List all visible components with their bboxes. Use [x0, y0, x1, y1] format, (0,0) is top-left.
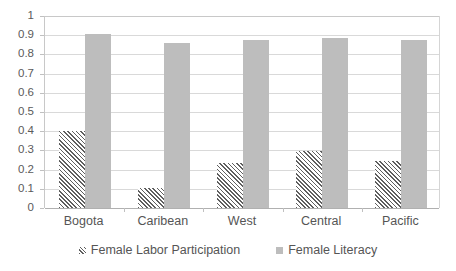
y-tick-label: 0.9	[0, 29, 39, 41]
bar-female-labor-participation	[217, 163, 243, 208]
y-tick-label: 0.2	[0, 164, 39, 176]
y-tick-mark	[40, 93, 44, 94]
y-tick-label: 0.3	[0, 144, 39, 156]
y-tick-label: 0.1	[0, 183, 39, 195]
y-tick-label: 0	[0, 202, 39, 214]
y-tick-label: 0.4	[0, 125, 39, 137]
x-tick-label: Central	[282, 212, 361, 230]
chart-legend: Female Labor ParticipationFemale Literac…	[0, 240, 456, 260]
x-tick-label: Pacific	[361, 212, 440, 230]
bar-group	[59, 16, 111, 208]
bar-female-labor-participation	[59, 131, 85, 208]
gridline	[45, 208, 439, 209]
bar-group	[217, 16, 269, 208]
y-tick-mark	[40, 131, 44, 132]
y-tick-mark	[40, 150, 44, 151]
y-tick-label: 0.8	[0, 48, 39, 60]
bar-female-labor-participation	[138, 188, 164, 208]
legend-label: Female Literacy	[288, 243, 377, 257]
bar-female-literacy	[401, 40, 427, 208]
bar-female-labor-participation	[375, 161, 401, 208]
bar-chart: 00.10.20.30.40.50.60.70.80.91 BogotaCari…	[0, 0, 456, 271]
bar-group	[375, 16, 427, 208]
bar-group	[138, 16, 190, 208]
legend-swatch-solid-icon	[276, 247, 283, 254]
legend-label: Female Labor Participation	[91, 243, 240, 257]
y-tick-label: 0.6	[0, 87, 39, 99]
y-tick-mark	[40, 74, 44, 75]
y-tick-mark	[40, 208, 44, 209]
y-tick-label: 0.7	[0, 68, 39, 80]
x-tick-label: West	[202, 212, 281, 230]
bar-female-literacy	[322, 38, 348, 208]
bar-female-literacy	[85, 34, 111, 208]
y-tick-mark	[40, 189, 44, 190]
legend-swatch-hatched-icon	[79, 247, 86, 254]
y-tick-mark	[40, 54, 44, 55]
legend-item[interactable]: Female Literacy	[276, 243, 377, 257]
bar-group	[296, 16, 348, 208]
x-tick-label: Caribean	[123, 212, 202, 230]
bar-female-literacy	[164, 43, 190, 208]
y-tick-mark	[40, 112, 44, 113]
bar-female-literacy	[243, 40, 269, 208]
y-tick-label: 0.5	[0, 106, 39, 118]
y-tick-mark	[40, 170, 44, 171]
y-axis: 00.10.20.30.40.50.60.70.80.91	[0, 0, 39, 271]
y-tick-mark	[40, 35, 44, 36]
legend-item[interactable]: Female Labor Participation	[79, 243, 240, 257]
y-tick-label: 1	[0, 10, 39, 22]
bar-female-labor-participation	[296, 151, 322, 208]
x-axis: BogotaCaribeanWestCentralPacific	[44, 212, 440, 234]
x-tick-label: Bogota	[44, 212, 123, 230]
y-tick-mark	[40, 16, 44, 17]
plot-area	[44, 16, 440, 208]
